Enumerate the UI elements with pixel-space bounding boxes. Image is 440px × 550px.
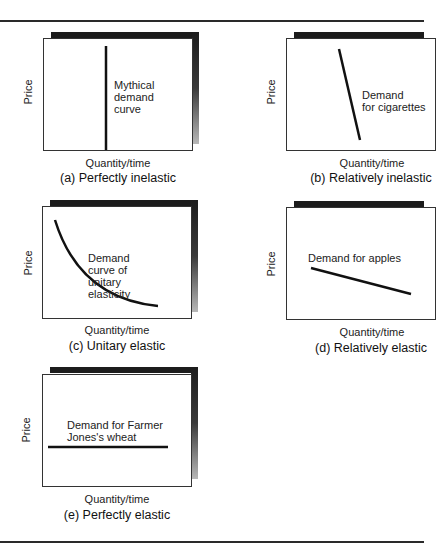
curve-annotation: Demand for Farmer Jones's wheat [67,419,163,443]
x-axis-label: Quantity/time [42,493,192,505]
y-axis-label: Price [20,417,32,442]
panel-caption: (e) Perfectly elastic [42,508,192,522]
